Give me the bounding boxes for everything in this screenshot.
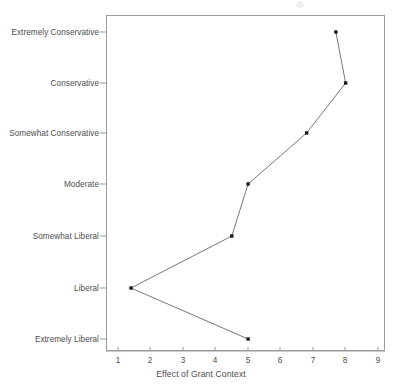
data-point-marker [305,131,308,134]
chart-figure: Extremely Conservative Conservative Some… [0,0,402,391]
series-markers [129,30,347,340]
data-point-marker [246,337,249,340]
data-point-marker [344,81,347,84]
data-point-marker [230,234,233,237]
data-point-marker [246,182,249,185]
series-line [131,32,346,339]
data-point-marker [334,30,337,33]
y-axis-ticks [100,32,106,339]
x-axis-ticks [118,347,378,351]
plot-area [0,0,402,391]
data-point-marker [129,286,132,289]
